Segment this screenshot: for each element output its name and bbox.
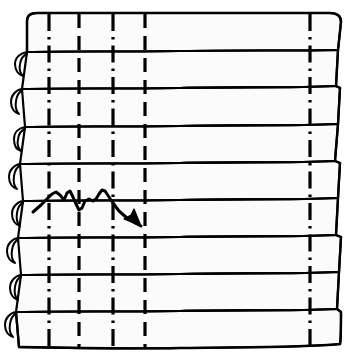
horizontal-band	[22, 50, 338, 89]
left-edge-curl	[7, 238, 18, 263]
left-edge-curl	[9, 164, 20, 189]
horizontal-band	[18, 235, 341, 275]
horizontal-band	[20, 124, 338, 164]
technical-drawing-svg: Stacked Band Technical Drawing Hand-draw…	[0, 0, 352, 361]
bands-group	[16, 13, 341, 348]
figure-root: Stacked Band Technical Drawing Hand-draw…	[0, 0, 352, 361]
horizontal-band	[20, 161, 340, 201]
horizontal-band	[18, 198, 338, 238]
horizontal-band	[16, 272, 339, 312]
horizontal-band	[27, 13, 341, 52]
horizontal-band	[22, 86, 340, 127]
horizontal-band	[16, 309, 341, 348]
left-edge-curl	[5, 312, 16, 337]
left-edge-curl	[11, 89, 22, 114]
